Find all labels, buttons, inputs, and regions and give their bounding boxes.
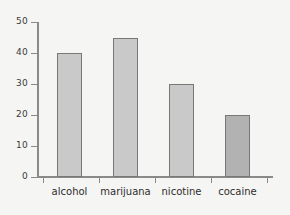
x-tick-mark [43, 178, 44, 183]
y-axis-line [37, 22, 39, 178]
x-label-nicotine: nicotine [154, 186, 210, 197]
y-tick-label: 10 [0, 141, 28, 150]
y-tick-label: 20 [0, 110, 28, 119]
y-tick-label: 40 [0, 48, 28, 57]
y-tick-label: 0 [0, 172, 28, 181]
y-tick-mark [31, 146, 37, 147]
bar-chart: 01020304050 alcoholmarijuananicotinecoca… [0, 0, 290, 215]
x-tick-mark [267, 178, 268, 183]
y-tick-mark [31, 53, 37, 54]
x-tick-mark [211, 178, 212, 183]
x-label-marijuana: marijuana [98, 186, 154, 197]
y-tick-label: 50 [0, 17, 28, 26]
y-tick-mark [31, 84, 37, 85]
x-tick-mark [99, 178, 100, 183]
plot-area: 01020304050 alcoholmarijuananicotinecoca… [0, 0, 290, 215]
bar-cocaine [225, 115, 250, 177]
bar-alcohol [57, 53, 82, 177]
y-tick-mark [31, 177, 37, 178]
bar-marijuana [113, 38, 138, 178]
bar-nicotine [169, 84, 194, 177]
y-tick-mark [31, 22, 37, 23]
y-tick-mark [31, 115, 37, 116]
x-label-cocaine: cocaine [210, 186, 266, 197]
y-tick-label: 30 [0, 79, 28, 88]
x-label-alcohol: alcohol [42, 186, 98, 197]
x-tick-mark [155, 178, 156, 183]
